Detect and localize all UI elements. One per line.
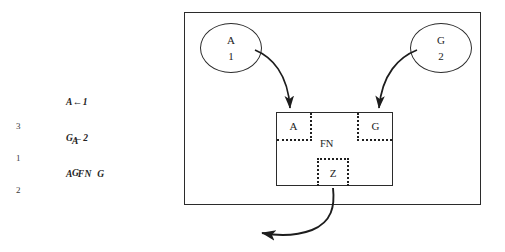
trace-margin-number: 2 [16, 185, 21, 195]
node-a-name: A [227, 32, 235, 48]
node-g-value: 2 [438, 48, 444, 64]
function-box-result-cell: Z [317, 158, 349, 186]
code-line-1: A←1 [66, 96, 105, 108]
node-a-value: 1 [228, 48, 234, 64]
function-box-right-cell: G [357, 113, 392, 141]
function-box-title: FN [320, 138, 333, 149]
function-box-left-cell: A [277, 113, 312, 141]
node-g: G 2 [410, 23, 472, 73]
trace-value: G [72, 168, 79, 178]
trace-margin-number: 1 [16, 153, 21, 163]
node-g-name: G [437, 32, 445, 48]
figure-canvas: A←1 G←2 A FN G 3 A 1 G 2 A 1 G 2 A G FN … [0, 0, 505, 252]
node-a: A 1 [200, 23, 262, 73]
trace-value: A [72, 136, 78, 146]
trace-margin-number: 3 [16, 121, 21, 131]
